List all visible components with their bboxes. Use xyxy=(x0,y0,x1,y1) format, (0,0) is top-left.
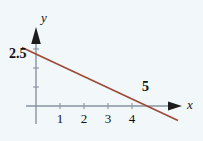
y-axis-arrow-icon xyxy=(31,27,41,44)
x-intercept-label: 5 xyxy=(142,80,149,94)
x-axis-label: x xyxy=(187,98,193,111)
graph-figure: y x 2.5 5 1 2 3 4 xyxy=(0,0,203,141)
plotted-line xyxy=(22,48,178,121)
x-axis-arrow-icon xyxy=(168,102,182,111)
x-tick-label-3: 3 xyxy=(100,112,116,125)
x-tick-label-2: 2 xyxy=(76,112,92,125)
x-tick-label-1: 1 xyxy=(52,112,68,125)
y-axis-label: y xyxy=(41,11,47,24)
y-intercept-label: 2.5 xyxy=(9,47,27,61)
x-tick-label-4: 4 xyxy=(124,112,140,125)
